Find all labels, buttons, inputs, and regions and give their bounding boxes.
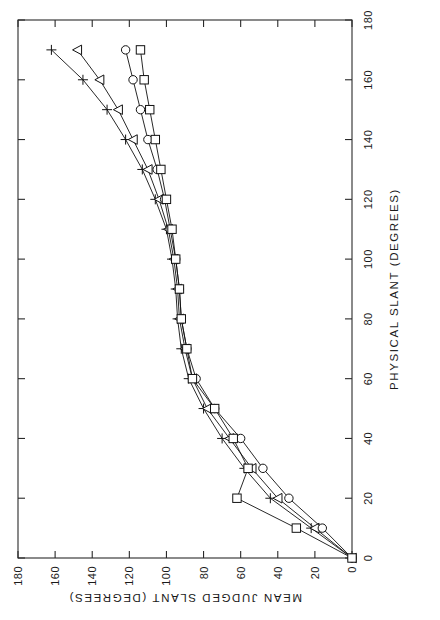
marker-square [157, 165, 165, 173]
y-axis-tick-label: 80 [198, 566, 210, 579]
marker-square [175, 285, 183, 293]
marker-triangle [95, 75, 104, 85]
series-line-square [140, 50, 352, 558]
plot-frame [18, 20, 352, 558]
x-axis-tick-label: 40 [362, 432, 374, 445]
series-group-square [136, 46, 356, 563]
marker-square [151, 135, 159, 143]
x-axis-tick-label: 120 [362, 189, 374, 209]
x-axis-tick-label: 60 [362, 372, 374, 385]
scatter-line-chart: 0204060801001201401601800204060801001201… [0, 0, 440, 620]
series-line-circle [126, 50, 352, 558]
marker-plus [102, 105, 112, 115]
marker-square [210, 404, 218, 412]
series-group-circle [121, 46, 356, 563]
y-axis-tick-label: 20 [309, 566, 321, 579]
marker-square [136, 46, 144, 54]
marker-square [172, 255, 180, 263]
marker-square [229, 434, 237, 442]
marker-square [168, 225, 176, 233]
marker-triangle [73, 45, 82, 55]
x-axis-tick-label: 0 [362, 555, 374, 562]
x-axis-tick-label: 100 [362, 249, 374, 269]
marker-square [140, 76, 148, 84]
y-axis-tick-label: 60 [235, 566, 247, 579]
series-line-plus [51, 50, 352, 558]
marker-circle [318, 524, 326, 532]
y-axis-tick-label: 0 [346, 566, 358, 573]
y-axis-tick-label: 160 [49, 566, 61, 586]
marker-square [162, 195, 170, 203]
marker-square [233, 494, 241, 502]
x-axis-tick-label: 20 [362, 492, 374, 505]
y-axis-tick-label: 100 [160, 566, 172, 586]
series-line-triangle [77, 50, 352, 558]
marker-square [177, 315, 185, 323]
marker-square [244, 464, 252, 472]
marker-triangle [143, 165, 152, 175]
y-axis-tick-label: 40 [272, 566, 284, 579]
x-axis-tick-label: 160 [362, 70, 374, 90]
marker-circle [259, 464, 267, 472]
series-group-plus [46, 45, 357, 563]
marker-square [188, 374, 196, 382]
marker-circle [129, 76, 137, 84]
marker-square [183, 345, 191, 353]
y-axis-tick-label: 180 [12, 566, 24, 586]
x-axis-tick-label: 80 [362, 312, 374, 325]
marker-square [348, 554, 356, 562]
marker-circle [136, 105, 144, 113]
marker-circle [285, 494, 293, 502]
figure-root: 0204060801001201401601800204060801001201… [0, 0, 440, 620]
plot-wrapper: 0204060801001201401601800204060801001201… [0, 0, 440, 620]
marker-circle [121, 46, 129, 54]
marker-square [146, 105, 154, 113]
x-axis-title: PHYSICAL SLANT (DEGREES) [388, 188, 400, 390]
y-axis-title: MEAN JUDGED SLANT (DEGREES) [68, 592, 302, 604]
marker-triangle [113, 105, 122, 115]
y-axis-tick-label: 140 [86, 566, 98, 586]
marker-triangle [128, 135, 137, 145]
y-axis-tick-label: 120 [123, 566, 135, 586]
x-axis-tick-label: 180 [362, 10, 374, 30]
marker-square [292, 524, 300, 532]
x-axis-tick-label: 140 [362, 130, 374, 150]
